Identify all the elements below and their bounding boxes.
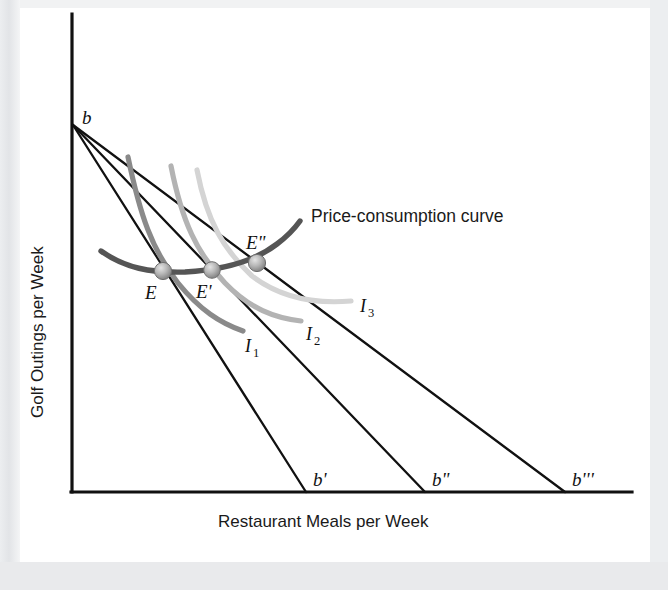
- budget-lines-group: [73, 125, 565, 492]
- label-indifference-i2: I 2: [305, 324, 320, 348]
- indifference-curves-group: [128, 157, 351, 331]
- chart-svg: b E E' E" Price-consumption curve I 1 I …: [0, 0, 668, 590]
- indifference-curve-i3[interactable]: [197, 170, 351, 302]
- label-i1-subscript: 1: [253, 346, 259, 360]
- budget-line-1[interactable]: [73, 125, 306, 492]
- label-equilibrium-e-double-prime: E": [245, 232, 267, 253]
- budget-line-3[interactable]: [73, 125, 565, 492]
- label-indifference-i1: I 1: [244, 336, 259, 360]
- label-i3-subscript: 3: [368, 306, 374, 320]
- label-i1-base: I: [244, 336, 252, 356]
- y-axis-label: Golf Outings per Week: [28, 246, 47, 418]
- label-budget-origin-b: b: [82, 107, 92, 128]
- label-equilibrium-e-prime: E': [195, 281, 213, 302]
- label-i2-subscript: 2: [314, 334, 320, 348]
- label-budget-end-b-double-prime: b": [432, 469, 451, 490]
- economics-figure: b E E' E" Price-consumption curve I 1 I …: [0, 0, 668, 590]
- label-equilibrium-e: E: [144, 282, 157, 303]
- label-budget-end-b-prime: b': [313, 469, 328, 490]
- label-i2-base: I: [305, 324, 313, 344]
- x-axis-label: Restaurant Meals per Week: [218, 512, 429, 531]
- label-i3-base: I: [359, 296, 367, 316]
- equilibrium-dot-e[interactable]: [154, 262, 171, 279]
- label-budget-end-b-triple-prime: b''': [572, 469, 595, 490]
- label-price-consumption-curve: Price-consumption curve: [311, 206, 504, 226]
- label-indifference-i3: I 3: [359, 296, 374, 320]
- equilibrium-dot-e-prime[interactable]: [204, 262, 221, 279]
- equilibrium-dot-e-double-prime[interactable]: [248, 254, 265, 271]
